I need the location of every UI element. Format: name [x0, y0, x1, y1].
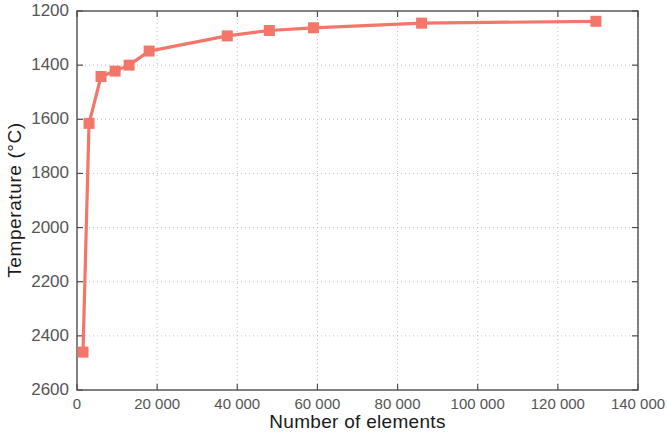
- data-point-marker: [308, 22, 319, 33]
- data-point-marker: [144, 46, 155, 57]
- data-point-marker: [124, 60, 135, 71]
- data-series: [78, 16, 602, 358]
- plot-area: [0, 0, 668, 444]
- data-point-marker: [416, 18, 427, 29]
- data-point-marker: [590, 16, 601, 27]
- gridlines: [77, 11, 638, 390]
- series-line: [83, 21, 596, 352]
- data-point-marker: [222, 30, 233, 41]
- data-point-marker: [78, 347, 89, 358]
- x-axis-label: Number of elements: [77, 411, 638, 433]
- plot-frame: [77, 11, 638, 390]
- data-point-marker: [264, 25, 275, 36]
- axis-ticks: [77, 11, 638, 390]
- data-point-marker: [96, 71, 107, 82]
- chart-container: Temperature (°C) 12001400160018002000220…: [0, 0, 668, 444]
- data-point-marker: [110, 66, 121, 77]
- data-point-marker: [84, 118, 95, 129]
